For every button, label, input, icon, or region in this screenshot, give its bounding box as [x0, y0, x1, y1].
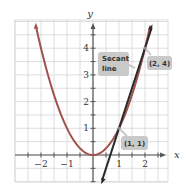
parabola-left-arrow-icon — [34, 23, 39, 29]
y-tick-label: 2 — [83, 97, 89, 107]
y-tick-label: 4 — [83, 43, 89, 53]
x-tick-label: 2 — [142, 159, 148, 169]
secant-bottom-arrow-icon — [101, 178, 106, 185]
callout-label-2-4: (2, 4) — [149, 60, 170, 68]
y-axis-arrow-icon — [91, 23, 96, 29]
y-tick-label: 3 — [83, 70, 89, 80]
callouts: (2, 4)(1, 1)Secantline — [98, 49, 172, 150]
callout-label-1-1: (1, 1) — [124, 140, 145, 148]
y-tick-label: 1 — [83, 123, 89, 133]
y-axis-label: y — [86, 8, 93, 19]
x-tick-label: −1 — [60, 159, 73, 169]
x-axis-label: x — [174, 149, 180, 160]
x-tick-label: 1 — [116, 159, 122, 169]
callout-label-secant: Secant — [102, 55, 130, 63]
callout-pointer — [146, 49, 151, 55]
secant-line — [102, 28, 151, 180]
x-axis-arrow-icon — [160, 153, 166, 158]
callout-pointer — [120, 129, 127, 136]
secant-line-chart: −2−1121234xy (2, 4)(1, 1)Secantline — [0, 0, 189, 192]
x-tick-label: −2 — [34, 159, 47, 169]
callout-label-secant: line — [102, 65, 117, 73]
